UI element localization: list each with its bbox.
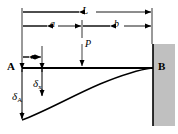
label-deflection-tip: δA (12, 91, 22, 102)
label-load-P: P (85, 39, 91, 49)
label-deflection-x: δx (33, 78, 42, 89)
label-span-L: L (82, 5, 88, 16)
cantilever-beam-deflection-figure: L a b P x A B δA δx (0, 0, 178, 134)
label-node-A: A (7, 61, 15, 72)
diagram-canvas (0, 0, 178, 134)
delta-subscript-tip: A (17, 96, 22, 103)
label-distance-x: x (31, 52, 35, 61)
label-node-B: B (158, 61, 165, 72)
label-span-a: a (50, 19, 55, 29)
delta-subscript-x: x (38, 83, 41, 90)
fixed-support-wall (153, 44, 175, 126)
label-span-b: b (114, 19, 119, 29)
